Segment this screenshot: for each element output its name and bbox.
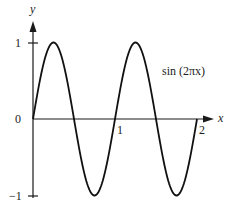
x-axis-label: x <box>217 111 224 125</box>
sine-chart: y x 1 0 −1 1 2 sin (2πx) <box>0 0 229 209</box>
x-tick-label-2: 2 <box>199 123 205 137</box>
y-axis-label: y <box>29 2 36 16</box>
x-axis-arrow-icon <box>203 116 214 123</box>
y-tick-label-neg1: −1 <box>9 189 22 203</box>
y-tick-label-0: 0 <box>15 112 21 126</box>
curve-label: sin (2πx) <box>162 64 205 78</box>
x-tick-label-1: 1 <box>117 123 123 137</box>
y-tick-label-1: 1 <box>15 36 21 50</box>
y-axis-arrow-icon <box>30 21 37 32</box>
